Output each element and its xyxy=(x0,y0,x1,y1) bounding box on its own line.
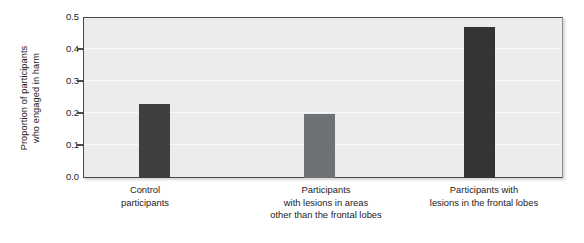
x-label-lesions-frontal-lobes: Participants with lesions in the frontal… xyxy=(404,184,564,209)
x-label-lesions-other-areas: Participants with lesions in areas other… xyxy=(246,184,406,222)
bars-layer xyxy=(83,17,563,178)
bar-lesions-other-areas xyxy=(304,114,335,178)
bar-chart: Proportion of participants who engaged i… xyxy=(0,0,584,243)
y-tick-label-0.4: 0.4 xyxy=(48,44,79,54)
y-axis-title-line-2: who engaged in harm xyxy=(31,46,43,151)
bar-control-participants xyxy=(139,104,170,178)
y-tick-label-0.2: 0.2 xyxy=(48,108,79,118)
y-axis-title-line-1: Proportion of participants xyxy=(19,46,31,151)
y-axis-title: Proportion of participants who engaged i… xyxy=(14,17,48,179)
y-tick-label-0.5: 0.5 xyxy=(48,12,79,22)
x-label-control-participants: Control participants xyxy=(85,184,205,209)
y-tick-label-0.3: 0.3 xyxy=(48,76,79,86)
bar-lesions-frontal-lobes xyxy=(464,27,495,178)
x-axis-category-labels: Control participants Participants with l… xyxy=(0,184,584,234)
y-tick-label-0.0: 0.0 xyxy=(48,172,79,182)
y-tick-label-0.1: 0.1 xyxy=(48,140,79,150)
